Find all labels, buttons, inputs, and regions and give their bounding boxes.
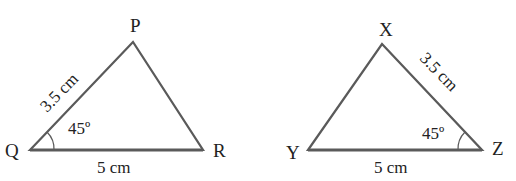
vertex-label-q: Q — [5, 140, 19, 161]
angle-z-arc — [458, 132, 465, 150]
vertex-label-y: Y — [286, 142, 300, 163]
triangle-pqr: P Q R 3.5 cm 45º 5 cm — [5, 15, 226, 177]
vertex-label-x: X — [379, 19, 393, 40]
angle-label-q: 45º — [68, 119, 90, 138]
triangle-xyz: X Y Z 3.5 cm 45º 5 cm — [286, 19, 504, 177]
side-label-qr: 5 cm — [97, 158, 131, 177]
side-label-qp: 3.5 cm — [36, 69, 82, 115]
vertex-label-p: P — [130, 15, 141, 36]
side-label-yz: 5 cm — [374, 158, 408, 177]
triangle-xyz-shape — [308, 44, 482, 150]
angle-label-z: 45º — [422, 124, 444, 143]
vertex-label-r: R — [213, 140, 226, 161]
congruent-triangles-diagram: P Q R 3.5 cm 45º 5 cm X Y Z 3.5 cm 45º 5… — [0, 0, 516, 181]
vertex-label-z: Z — [492, 138, 504, 159]
angle-q-arc — [47, 132, 54, 150]
